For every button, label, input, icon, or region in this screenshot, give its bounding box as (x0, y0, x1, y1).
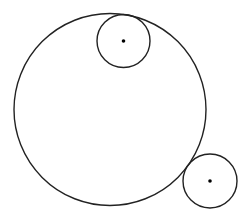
small-circle-bottom-right-center-dot (208, 179, 212, 183)
small-circle-top-center-dot (122, 39, 126, 43)
large-circle (14, 14, 206, 206)
geometry-diagram (0, 0, 248, 218)
diagram-svg (0, 0, 248, 218)
